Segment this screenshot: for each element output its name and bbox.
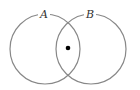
set-a-label: A [39, 8, 48, 21]
intersection-point [66, 46, 71, 51]
venn-diagram: A B [0, 0, 140, 90]
set-b-label: B [85, 8, 94, 21]
